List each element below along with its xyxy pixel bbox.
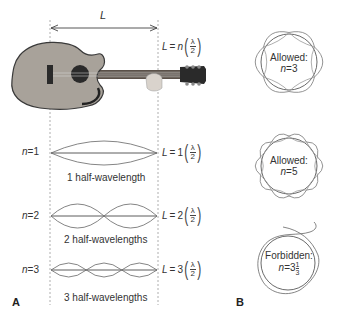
mode-n2-caption: 2 half-wavelengths	[64, 234, 147, 245]
orbit-2-label: Allowed: n=5	[259, 155, 319, 177]
mode-n1-label: n=1	[22, 146, 39, 157]
mode-n2-label: n=2	[22, 210, 39, 221]
mode-n3-label: n=3	[22, 264, 39, 275]
mode-n1-caption: 1 half-wavelength	[67, 172, 145, 183]
mode-n3-caption: 3 half-wavelengths	[64, 292, 147, 303]
length-label: L	[100, 9, 106, 21]
orbit-1-label: Allowed: n=3	[259, 52, 319, 74]
panel-b-label: B	[236, 296, 244, 308]
standing-wave-n2	[51, 204, 157, 228]
panel-a-label: A	[12, 296, 20, 308]
general-equation: L = n ( λ2 )	[162, 36, 202, 56]
mode-n1-equation: L = 1 ( λ2 )	[162, 142, 202, 162]
length-arrow	[51, 25, 157, 31]
standing-wave-n1	[51, 141, 157, 165]
orbit-3-label: Forbidden: n=313	[256, 250, 322, 276]
mode-n3-equation: L = 3 ( λ2 )	[162, 259, 202, 279]
mode-n2-equation: L = 2 ( λ2 )	[162, 205, 202, 225]
standing-wave-n3	[51, 263, 157, 277]
